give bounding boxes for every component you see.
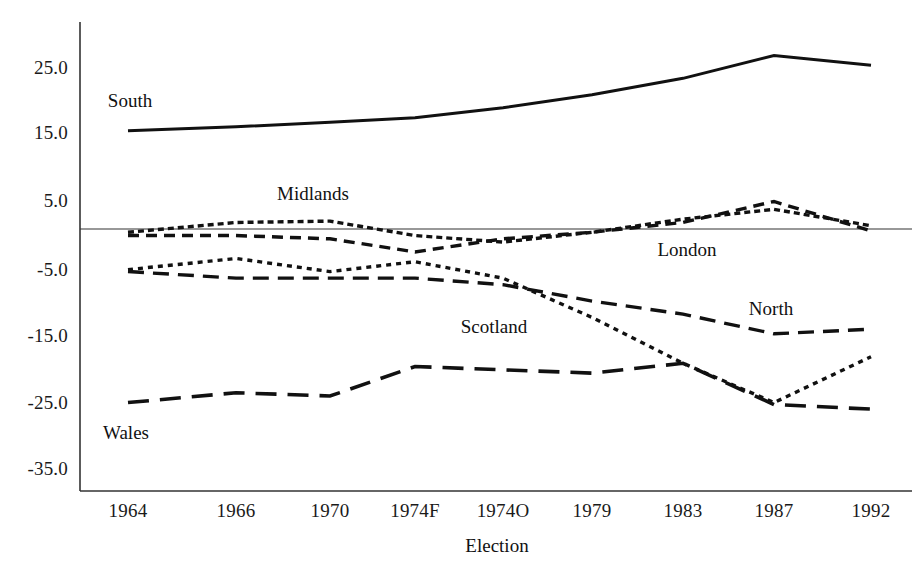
y-tick-label-15: 15.0	[6, 122, 68, 144]
x-tick-label-1974F: 1974F	[390, 500, 440, 522]
y-tick-label-minus15: -15.0	[6, 325, 68, 347]
x-axis-title: Election	[465, 535, 528, 557]
x-tick-label-1992: 1992	[852, 500, 891, 522]
series-label-london: London	[657, 239, 716, 261]
series-label-north: North	[749, 298, 793, 320]
x-tick-label-1966: 1966	[217, 500, 256, 522]
line-chart-plot	[0, 0, 917, 576]
y-tick-label-minus35: -35.0	[6, 458, 68, 480]
axis-lines	[80, 22, 912, 491]
y-tick-label-25: 25.0	[6, 57, 68, 79]
series-label-midlands: Midlands	[277, 183, 349, 205]
x-tick-label-1970: 1970	[311, 500, 350, 522]
x-tick-label-1987: 1987	[755, 500, 794, 522]
series-lines-layer	[128, 55, 871, 409]
series-line-london	[128, 201, 871, 251]
series-label-south: South	[108, 90, 152, 112]
chart-figure: 25.0 15.0 5.0 -5.0 -15.0 -25.0 -35.0 196…	[0, 0, 917, 576]
series-line-wales	[128, 363, 871, 409]
series-label-scotland: Scotland	[461, 316, 528, 338]
x-tick-label-1979: 1979	[573, 500, 612, 522]
x-tick-label-1974O: 1974O	[477, 500, 530, 522]
x-tick-label-1983: 1983	[664, 500, 703, 522]
y-tick-label-5: 5.0	[6, 190, 68, 212]
series-line-south	[128, 55, 871, 130]
y-tick-label-minus5: -5.0	[6, 259, 68, 281]
series-label-wales: Wales	[103, 422, 149, 444]
x-tick-label-1964: 1964	[109, 500, 148, 522]
y-tick-label-minus25: -25.0	[6, 392, 68, 414]
